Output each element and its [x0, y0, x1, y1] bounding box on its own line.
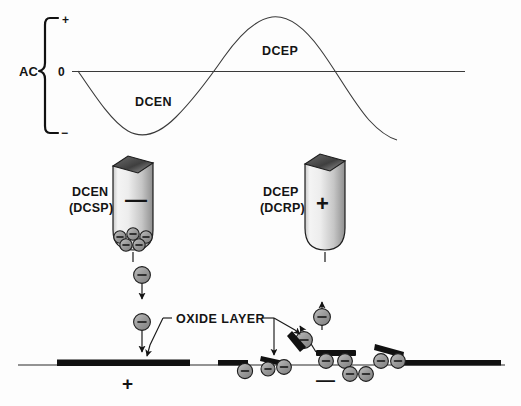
workpiece-plus-sign: +	[122, 373, 133, 394]
electrode-dcep-polarity-sign: +	[316, 191, 329, 216]
workpiece-minus-sign: —	[316, 369, 335, 390]
welding-polarity-diagram: AC + 0 − DCEN DCEP DCEN (DCSP) — DCEP (D…	[0, 0, 521, 406]
electrode-dcen-label: DCEN	[72, 185, 108, 199]
waveform-dcen-label: DCEN	[135, 95, 172, 109]
electrode-dcen-polarity-sign: —	[125, 187, 147, 212]
axis-plus-label: +	[62, 13, 69, 27]
electrode-dcep-label: DCEP	[263, 185, 299, 199]
ac-label: AC	[19, 64, 38, 79]
axis-minus-label: −	[61, 126, 68, 140]
waveform-dcep-label: DCEP	[262, 44, 298, 58]
electrode-dcen-sublabel: (DCSP)	[69, 201, 113, 215]
electrode-dcep-sublabel: (DCRP)	[260, 201, 305, 215]
axis-zero-label: 0	[58, 65, 65, 79]
oxide-layer-label: OXIDE LAYER	[176, 312, 265, 326]
